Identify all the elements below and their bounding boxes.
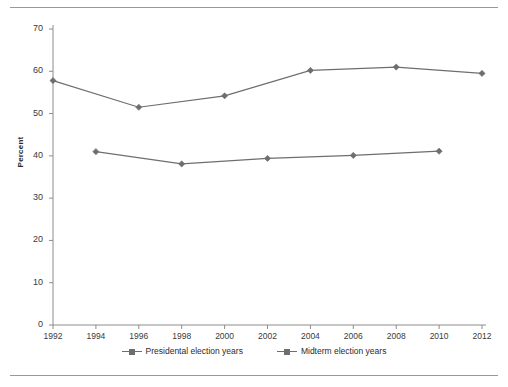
x-tick-label: 2006	[333, 331, 373, 341]
x-tick-label: 1996	[119, 331, 159, 341]
y-tick-label: 50	[17, 108, 43, 118]
x-tick-label: 2008	[376, 331, 416, 341]
y-tick-label: 60	[17, 65, 43, 75]
x-tick-label: 2010	[419, 331, 459, 341]
chart-figure: Percent 010203040506070 1992199419961998…	[0, 0, 508, 387]
y-tick-label: 70	[17, 23, 43, 33]
x-tick-label: 2002	[248, 331, 288, 341]
y-tick-label: 10	[17, 277, 43, 287]
x-tick-label: 1994	[76, 331, 116, 341]
legend-item-presidential: Presidental election years	[122, 346, 243, 356]
chart-legend: Presidental election years Midterm elect…	[0, 346, 508, 356]
y-tick-label: 40	[17, 150, 43, 160]
legend-item-midterm: Midterm election years	[277, 346, 387, 356]
y-tick-label: 30	[17, 192, 43, 202]
y-tick-label: 0	[17, 319, 43, 329]
legend-marker-icon	[122, 347, 142, 356]
x-tick-label: 2000	[205, 331, 245, 341]
x-tick-label: 1998	[162, 331, 202, 341]
legend-label-midterm: Midterm election years	[301, 346, 387, 356]
x-tick-label: 2012	[462, 331, 502, 341]
y-tick-label: 20	[17, 234, 43, 244]
chart-axes	[49, 25, 486, 329]
legend-label-presidential: Presidental election years	[146, 346, 243, 356]
x-tick-label: 2004	[290, 331, 330, 341]
x-tick-label: 1992	[33, 331, 73, 341]
chart-series	[50, 64, 485, 167]
line-chart-plot	[0, 0, 508, 387]
legend-marker-icon	[277, 347, 297, 356]
